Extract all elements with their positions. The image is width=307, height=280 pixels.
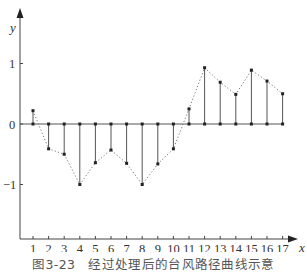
data-point-marker [172,147,175,150]
y-axis-label: y [8,20,16,35]
x-tick-label: 9 [155,242,161,252]
x-tick-label: 16 [261,242,274,252]
baseline-marker [47,123,50,126]
baseline-marker [234,123,237,126]
data-point-marker [63,153,66,156]
data-point-marker [94,161,97,164]
data-point-marker [203,66,206,69]
figure-caption: 图3-23 经过处理后的台风路径曲线示意 [0,254,307,273]
y-tick-label: −1 [3,178,16,192]
data-point-marker [47,147,50,150]
baseline-marker [32,123,35,126]
x-tick-label: 12 [198,242,211,252]
x-tick-label: 4 [77,242,84,252]
data-point-marker [78,183,81,186]
baseline-marker [172,123,175,126]
data-point-marker [32,109,35,112]
y-tick-label: 0 [9,118,15,132]
x-axis-label: x [298,240,305,252]
chart-canvas: yx10−11234567891011121314151617 [0,0,307,252]
x-tick-label: 1 [30,242,36,252]
data-point-marker [125,162,128,165]
x-tick-label: 5 [92,242,98,252]
x-tick-label: 13 [214,242,227,252]
x-tick-label: 10 [167,242,180,252]
baseline-marker [250,123,253,126]
data-point-marker [234,93,237,96]
x-tick-label: 15 [245,242,258,252]
x-tick-label: 3 [61,242,67,252]
baseline-marker [203,123,206,126]
data-point-marker [188,107,191,110]
baseline-marker [281,123,284,126]
x-tick-label: 17 [276,242,289,252]
data-point-marker [281,92,284,95]
x-tick-label: 6 [108,242,114,252]
baseline-marker [94,123,97,126]
data-point-marker [266,80,269,83]
baseline-marker [125,123,128,126]
data-point-marker [156,162,159,165]
x-tick-label: 14 [230,242,243,252]
baseline-marker [156,123,159,126]
x-tick-label: 8 [139,242,145,252]
y-axis-arrow-icon [17,8,24,18]
baseline-marker [78,123,81,126]
x-axis-arrow-icon [288,236,298,243]
baseline-marker [110,123,113,126]
baseline-marker [188,123,191,126]
data-point-marker [219,81,222,84]
y-tick-label: 1 [9,57,15,71]
data-point-marker [250,69,253,72]
data-point-marker [110,149,113,152]
data-point-marker [141,183,144,186]
x-tick-label: 2 [45,242,51,252]
x-tick-label: 7 [123,242,129,252]
baseline-marker [266,123,269,126]
baseline-marker [141,123,144,126]
baseline-marker [63,123,66,126]
x-tick-label: 11 [183,242,195,252]
baseline-marker [219,123,222,126]
